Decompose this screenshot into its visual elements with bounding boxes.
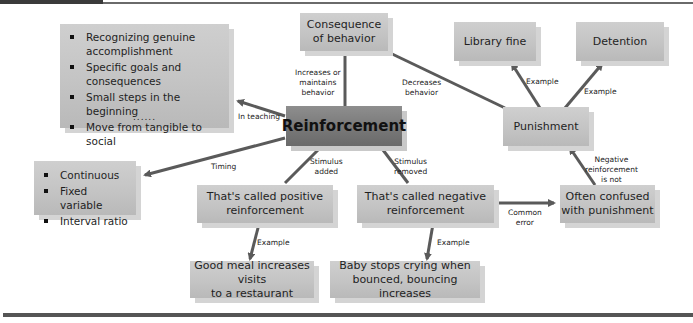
- consequence-node: Consequence of behavior: [300, 13, 388, 51]
- label-common-error: Common error: [508, 208, 542, 228]
- bullet-icon: [44, 189, 48, 193]
- negative-reinforcement-node: That's called negative reinforcement: [357, 185, 494, 223]
- punishment-node: Punishment: [503, 107, 589, 146]
- detention-node: Detention: [576, 22, 664, 61]
- label-timing: Timing: [211, 162, 236, 172]
- list-item: Interval ratio: [44, 214, 128, 228]
- label-example-negative: Example: [437, 238, 470, 248]
- often-confused-node: Often confused with punishment: [560, 185, 655, 223]
- label-increases: Increases or maintains behavior: [295, 68, 341, 98]
- link-example-detention: [565, 64, 602, 108]
- list-item: Fixed variable: [44, 184, 128, 212]
- label-decreases: Decreases behavior: [402, 78, 441, 98]
- list-item: Continuous: [44, 168, 128, 182]
- link-example-negative: [427, 224, 433, 259]
- bullet-icon: [44, 219, 48, 223]
- library-fine-node: Library fine: [454, 22, 536, 61]
- more-ellipsis: ......: [60, 110, 229, 124]
- label-in-teaching: In teaching: [238, 112, 280, 122]
- list-item: Specific goals and consequences: [70, 60, 221, 88]
- baby-example-node: Baby stops crying when bounced, bouncing…: [330, 261, 480, 298]
- good-meal-example-node: Good meal increases visits to a restaura…: [190, 261, 314, 298]
- bullet-icon: [70, 35, 74, 39]
- reinforcement-node: Reinforcement: [286, 106, 402, 146]
- label-stimulus-added: Stimulus added: [310, 157, 343, 177]
- bullet-icon: [70, 125, 74, 129]
- label-example-detention: Example: [584, 87, 617, 97]
- list-item: Recognizing genuine accomplishment: [70, 30, 221, 58]
- bullet-icon: [44, 173, 48, 177]
- label-example-libfine: Example: [526, 77, 559, 87]
- bullet-icon: [70, 65, 74, 69]
- teaching-strategies-box: Recognizing genuine accomplishment Speci…: [60, 24, 229, 128]
- label-example-positive: Example: [257, 238, 290, 248]
- footer-rule: [3, 313, 693, 317]
- label-stimulus-removed: Stimulus removed: [394, 157, 427, 177]
- timing-schedules-box: Continuous Fixed variable Interval ratio: [34, 161, 136, 215]
- list-item: Move from tangible to social: [70, 120, 221, 148]
- label-negative-not: Negative reinforcement is not: [585, 155, 638, 185]
- positive-reinforcement-node: That's called positive reinforcement: [197, 185, 333, 223]
- bullet-icon: [70, 95, 74, 99]
